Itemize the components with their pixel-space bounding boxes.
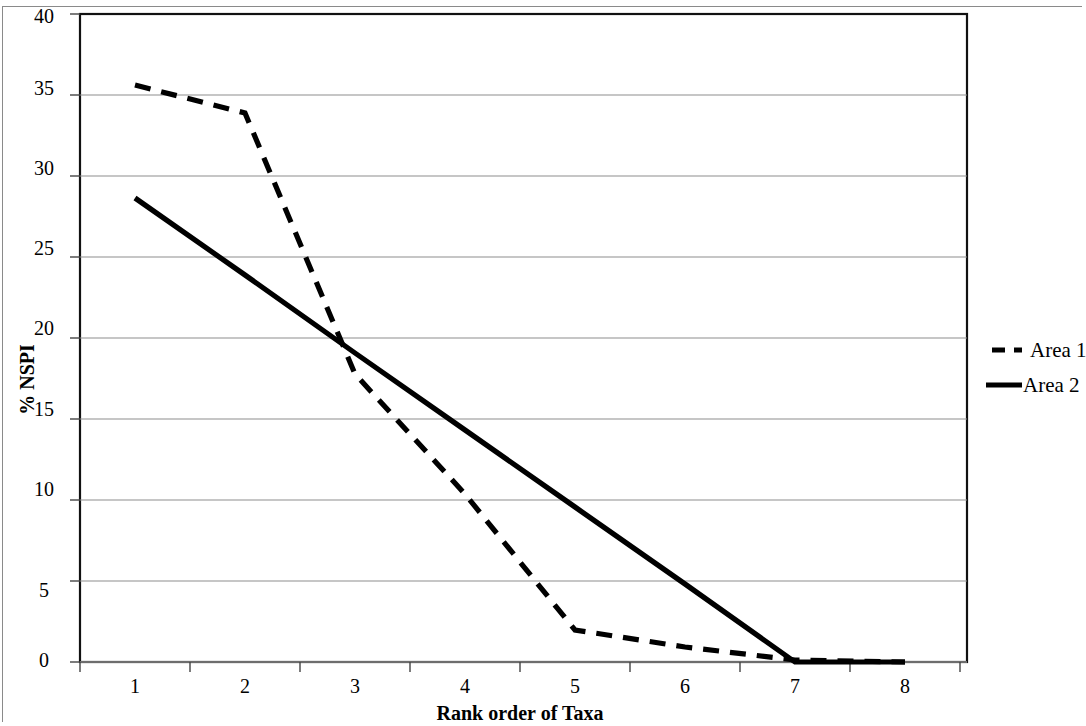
y-axis-ticks bbox=[70, 14, 80, 662]
series-line-area-2 bbox=[135, 198, 905, 662]
series-line-area-1 bbox=[135, 85, 905, 662]
plot-canvas bbox=[0, 0, 1086, 726]
chart-figure: 40 35 30 25 20 15 10 5 0 % NSPI 1 2 3 4 … bbox=[0, 0, 1086, 726]
line-chart: 40 35 30 25 20 15 10 5 0 % NSPI 1 2 3 4 … bbox=[0, 0, 1086, 726]
gridlines bbox=[80, 95, 967, 581]
